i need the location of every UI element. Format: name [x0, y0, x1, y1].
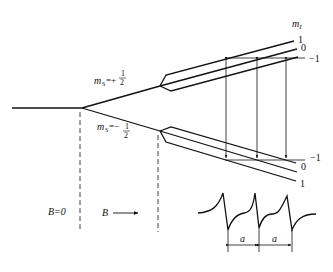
ms-plus-half-level [82, 86, 160, 108]
lower-hyperfine-levels [160, 127, 297, 181]
spacing-label-2: a [272, 233, 277, 244]
svg-text:S: S [105, 127, 108, 133]
esr-spectrum-trace [198, 193, 316, 230]
field-label: B [102, 207, 108, 218]
ms-minus-half-level [82, 108, 160, 131]
lower-mi-label-1: 1 [300, 178, 305, 189]
transition-arrows [226, 60, 286, 158]
ms-minus-label: m S =− 1 2 [97, 121, 130, 140]
upper-hyperfine-levels [160, 41, 298, 91]
spacing-label-1: a [240, 233, 245, 244]
esr-hyperfine-diagram: mI 1 0 −1 −1 0 1 m S =+ 1 2 m S =− 1 2 B… [0, 0, 333, 272]
mi-header-label: mI [292, 18, 302, 31]
svg-text:=+: =+ [106, 75, 116, 85]
upper-mi-label-minus1: −1 [309, 53, 320, 64]
upper-mi-label-0: 0 [301, 42, 306, 53]
svg-text:S: S [102, 81, 105, 87]
lower-mi-label-0: 0 [301, 161, 306, 172]
ms-plus-label: m S =+ 1 2 [94, 69, 126, 87]
svg-text:1: 1 [125, 122, 129, 131]
zero-field-label: B=0 [48, 206, 66, 217]
svg-text:m: m [94, 75, 101, 86]
svg-text:2: 2 [120, 78, 124, 87]
svg-text:2: 2 [124, 131, 128, 140]
svg-text:=−: =− [109, 121, 119, 131]
svg-text:m: m [97, 121, 104, 132]
lower-mi-label-minus1: −1 [310, 152, 321, 163]
svg-text:1: 1 [121, 69, 125, 78]
